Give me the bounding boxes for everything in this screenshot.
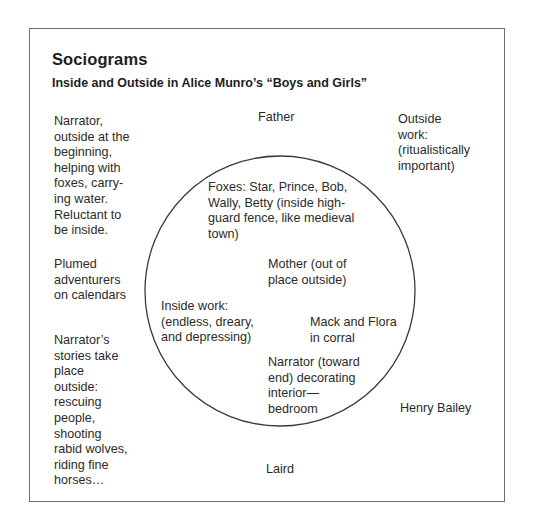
label-foxes: Foxes: Star, Prince, Bob, Wally, Betty (…: [208, 180, 378, 242]
label-mother: Mother (out of place outside): [268, 257, 378, 288]
label-plumed-adventurers: Plumed adventurers on calendars: [54, 257, 164, 304]
label-inside-work: Inside work: (endless, dreary, and depre…: [161, 299, 271, 346]
label-mack-and-flora: Mack and Flora in corral: [310, 315, 410, 346]
label-henry-bailey: Henry Bailey: [400, 401, 471, 417]
label-laird: Laird: [266, 462, 294, 478]
label-outside-work: Outside work: (ritualistically important…: [398, 112, 498, 174]
page-title: Sociograms: [52, 50, 147, 69]
label-father: Father: [258, 110, 294, 126]
page-subtitle: Inside and Outside in Alice Munro’s “Boy…: [52, 76, 367, 90]
label-narrator-outside: Narrator, outside at the beginning, help…: [54, 114, 154, 239]
label-narrator-stories: Narrator’s stories take place outside: r…: [54, 333, 154, 489]
label-narrator-end: Narrator (toward end) decorating interio…: [268, 355, 378, 417]
